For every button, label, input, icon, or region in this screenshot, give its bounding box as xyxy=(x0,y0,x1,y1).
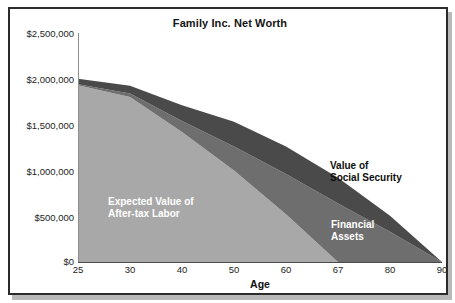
chart-figure: Family Inc. Net Worth $2,500,000 $2,000,… xyxy=(0,0,455,303)
y-axis-line xyxy=(78,33,79,263)
series-label-after-tax-labor: Expected Value of After-tax Labor xyxy=(108,196,194,220)
x-tick-label: 67 xyxy=(333,264,344,275)
x-axis-line xyxy=(78,262,442,263)
stacked-area-plot xyxy=(0,0,455,303)
x-tick-label: 80 xyxy=(385,264,396,275)
x-tick-label: 90 xyxy=(437,264,448,275)
x-tick-label: 40 xyxy=(177,264,188,275)
x-tick-label: 50 xyxy=(229,264,240,275)
x-tick-label: 60 xyxy=(281,264,292,275)
x-tick-label: 30 xyxy=(125,264,136,275)
x-tick-label: 25 xyxy=(73,264,84,275)
x-axis-title: Age xyxy=(78,278,442,290)
series-label-social-security: Value of Social Security xyxy=(330,160,402,184)
series-label-financial-assets: Financial Assets xyxy=(331,219,374,243)
